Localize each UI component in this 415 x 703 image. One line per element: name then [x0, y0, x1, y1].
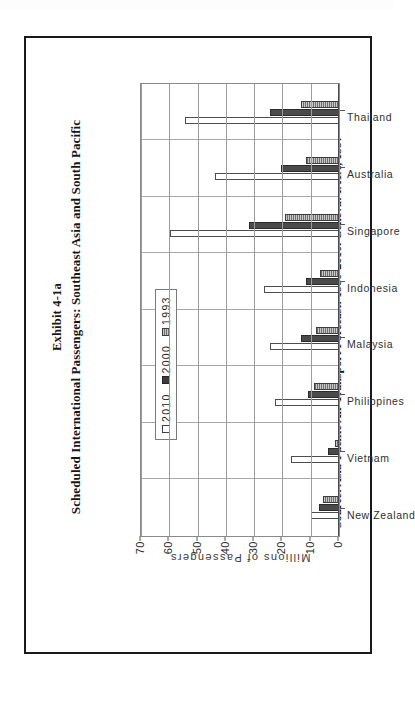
y-axis-tick-label: 70	[134, 541, 146, 554]
bar	[314, 383, 339, 390]
bar	[291, 456, 339, 463]
x-axis-tick-mark	[340, 110, 345, 111]
bar	[215, 173, 339, 180]
scan-artifact-strip	[0, 0, 393, 10]
x-axis-tick-label: Philippines	[347, 395, 404, 407]
x-axis-tick: Australia	[340, 140, 384, 197]
x-axis-tick-mark	[340, 508, 345, 509]
bar	[249, 222, 340, 229]
x-axis-tick-mark	[340, 167, 345, 168]
chart-rotation-wrapper: Millions of Passengers 010203040506070 2…	[134, 75, 384, 615]
bar	[320, 270, 339, 277]
bar	[264, 286, 339, 293]
y-axis-tick-label: 50	[191, 541, 203, 554]
bar	[270, 109, 339, 116]
y-axis-tick-label: 30	[247, 541, 259, 554]
figure-title-block: Exhibit 4-1a Scheduled International Pas…	[49, 17, 97, 617]
x-axis-tick-mark	[340, 224, 345, 225]
gridline	[141, 84, 142, 536]
gridline	[254, 84, 255, 536]
bar	[275, 399, 339, 406]
y-axis: Millions of Passengers 010203040506070	[140, 537, 340, 569]
bar	[185, 117, 339, 124]
gridline	[226, 84, 227, 536]
x-axis-tick: Indonesia	[340, 253, 384, 310]
bar-group	[141, 197, 339, 254]
bar	[270, 343, 339, 350]
x-axis-tick: Vietnam	[340, 424, 384, 481]
bar-group	[141, 480, 339, 537]
axis-baseline	[338, 84, 339, 536]
bar-chart: Millions of Passengers 010203040506070 2…	[134, 75, 384, 615]
bar-group	[141, 141, 339, 198]
y-axis-tick-label: 60	[162, 541, 174, 554]
x-axis-tick: Thailand	[340, 83, 384, 140]
bar	[301, 101, 339, 108]
x-axis-tick-mark	[340, 337, 345, 338]
gridline	[198, 84, 199, 536]
x-axis-tick-label: Singapore	[347, 225, 400, 237]
bar	[301, 335, 339, 342]
y-axis-tick-label: 10	[304, 541, 316, 554]
x-axis-tick-label: Thailand	[347, 111, 392, 123]
bar-group	[141, 84, 339, 141]
bar	[323, 496, 339, 503]
gridline	[311, 84, 312, 536]
x-axis-tick-label: Indonesia	[347, 282, 398, 294]
page-title: Scheduled International Passengers: Sout…	[67, 17, 85, 617]
x-axis-tick: Malaysia	[340, 310, 384, 367]
bar	[285, 214, 339, 221]
x-axis-tick-mark	[340, 451, 345, 452]
x-axis-tick-label: Australia	[347, 168, 393, 180]
y-axis-tick-label: 0	[332, 541, 344, 548]
chart-legend: 2010 2000 1993	[155, 289, 177, 440]
bar	[319, 504, 339, 511]
x-axis-tick-mark	[340, 281, 345, 282]
x-axis-tick-mark	[340, 394, 345, 395]
rotated-stage: Exhibit 4-1a Scheduled International Pas…	[26, 38, 370, 652]
gridline	[282, 84, 283, 536]
y-axis-tick-label: 40	[219, 541, 231, 554]
x-axis-tick: New Zealand	[340, 480, 384, 537]
bar	[308, 391, 339, 398]
y-axis-tick-label: 20	[275, 541, 287, 554]
x-axis-tick: Singapore	[340, 197, 384, 254]
exhibit-number: Exhibit 4-1a	[49, 17, 65, 617]
x-axis-tick-label: New Zealand	[347, 509, 415, 521]
figure-frame: Exhibit 4-1a Scheduled International Pas…	[24, 36, 372, 654]
bar	[311, 512, 339, 519]
gridline	[169, 84, 170, 536]
plot-area: 2010 2000 1993	[140, 83, 340, 537]
x-axis-tick: Philippines	[340, 367, 384, 424]
x-axis-tick-label: Vietnam	[347, 452, 390, 464]
x-axis-labels: New ZealandVietnamPhilippinesMalaysiaInd…	[340, 83, 384, 537]
bar	[316, 327, 339, 334]
x-axis-tick-label: Malaysia	[347, 338, 393, 350]
